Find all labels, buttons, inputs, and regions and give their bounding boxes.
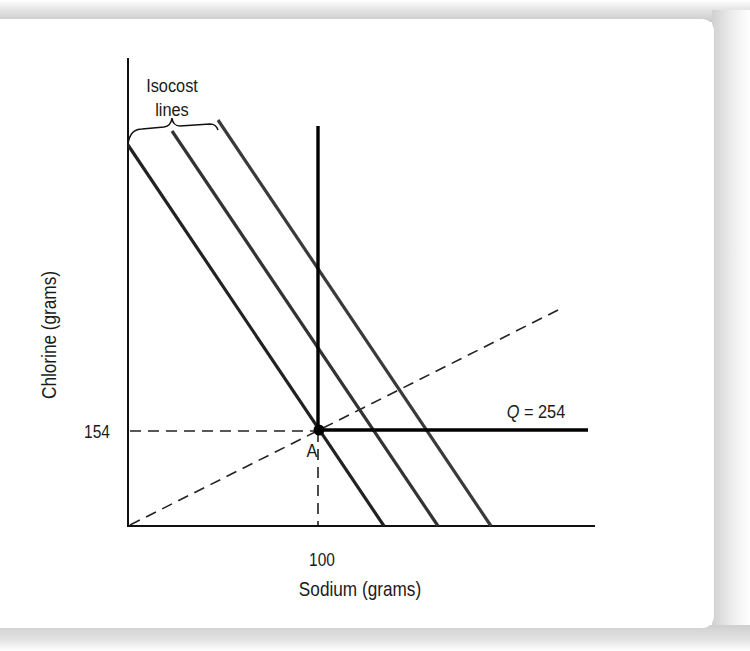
isoquant-label: Q = 254: [507, 401, 566, 422]
isocost-line-1: [128, 145, 384, 526]
y-axis-label: Chlorine (grams): [38, 271, 61, 399]
isoquant-q254: [318, 126, 588, 431]
point-a-label: A: [307, 440, 318, 461]
isocost-label-line2: lines: [155, 99, 189, 120]
isocost-isoquant-chart: Isocost lines Q = 254 A 154 100 Sodium (…: [0, 0, 750, 651]
isocost-lines: [128, 120, 491, 526]
x-axis-label: Sodium (grams): [299, 578, 421, 601]
isocost-label-line1: Isocost: [146, 75, 198, 96]
isoquant-q-symbol: Q: [507, 401, 520, 422]
isocost-line-2: [172, 131, 438, 526]
y-tick-154: 154: [84, 422, 110, 442]
point-a-marker: [314, 425, 325, 436]
expansion-ray: [130, 308, 562, 525]
dashed-guides: [130, 308, 562, 525]
x-tick-100: 100: [309, 550, 335, 570]
isocost-line-3: [218, 120, 491, 526]
isoquant-value: = 254: [519, 401, 565, 422]
axes: [127, 58, 595, 527]
